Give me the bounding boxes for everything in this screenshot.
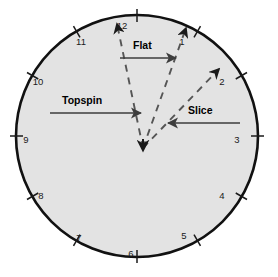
slice-annotation-label: Slice bbox=[188, 104, 213, 116]
clock-number-11: 11 bbox=[76, 36, 86, 47]
clock-face-spin-diagram: 121234567891011 TopspinFlatSlice bbox=[0, 0, 278, 277]
diagram-canvas: 121234567891011 TopspinFlatSlice bbox=[0, 0, 278, 277]
clock-number-2: 2 bbox=[219, 76, 224, 87]
flat-annotation-label: Flat bbox=[133, 39, 152, 51]
topspin-annotation-label: Topspin bbox=[62, 94, 102, 106]
clock-number-3: 3 bbox=[234, 134, 239, 145]
clock-number-8: 8 bbox=[38, 190, 43, 201]
clock-number-10: 10 bbox=[33, 76, 44, 87]
clock-number-7: 7 bbox=[76, 232, 81, 243]
clock-number-6: 6 bbox=[128, 248, 133, 259]
clock-face-circle bbox=[16, 15, 258, 257]
clock-number-9: 9 bbox=[23, 134, 28, 145]
clock-number-5: 5 bbox=[181, 230, 186, 241]
clock-number-4: 4 bbox=[219, 190, 224, 201]
